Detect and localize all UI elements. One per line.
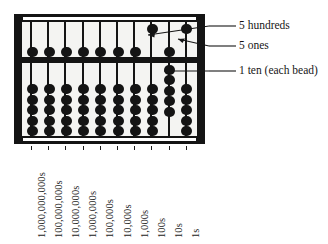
lower-bead-100000-2-inactive[interactable] xyxy=(95,95,106,105)
upper-bead-1000000-inactive[interactable] xyxy=(78,47,89,57)
column-tick-10000000 xyxy=(65,146,66,150)
lower-bead-100000000-1-inactive[interactable] xyxy=(44,84,55,94)
upper-bead-100000000-inactive[interactable] xyxy=(44,47,55,57)
lower-bead-10000-2-inactive[interactable] xyxy=(113,95,124,105)
column-label-1: 1s xyxy=(190,228,201,238)
annotation-1-ten-each-bead: 1 ten (each bead) xyxy=(239,64,318,76)
lower-bead-100000000-3-inactive[interactable] xyxy=(44,105,55,115)
lower-bead-100-5-inactive[interactable] xyxy=(147,126,158,136)
lower-bead-1000-4-inactive[interactable] xyxy=(130,116,141,126)
column-tick-100000 xyxy=(100,146,101,150)
lower-bead-10000-5-inactive[interactable] xyxy=(113,126,124,136)
lower-bead-10-3-active[interactable] xyxy=(164,86,175,96)
column-tick-10 xyxy=(169,146,170,150)
upper-bead-1000000000-inactive[interactable] xyxy=(27,47,38,57)
column-label-10000: 10,000s xyxy=(122,204,133,238)
lower-bead-1000000-5-inactive[interactable] xyxy=(78,126,89,136)
column-label-100000000: 100,000,000s xyxy=(53,180,64,238)
upper-bead-100-active[interactable] xyxy=(147,24,158,34)
lower-bead-1000-2-inactive[interactable] xyxy=(130,95,141,105)
lower-bead-1000-3-inactive[interactable] xyxy=(130,105,141,115)
lower-bead-10000000-4-inactive[interactable] xyxy=(61,116,72,126)
column-tick-100 xyxy=(151,146,152,150)
lower-bead-100000-4-inactive[interactable] xyxy=(95,116,106,126)
column-label-10000000: 10,000,000s xyxy=(70,186,81,238)
abacus-frame-bottom-highlight xyxy=(23,138,196,141)
abacus-frame-top-highlight xyxy=(23,17,196,20)
column-label-1000000000: 1,000,000,000s xyxy=(36,172,47,238)
lower-bead-10000-1-inactive[interactable] xyxy=(113,84,124,94)
abacus-figure: 1,000,000,000s100,000,000s10,000,000s1,0… xyxy=(0,0,328,244)
abacus xyxy=(14,14,205,144)
lower-bead-1000000-2-inactive[interactable] xyxy=(78,95,89,105)
annotation-5-hundreds: 5 hundreds xyxy=(239,19,290,31)
upper-bead-10000-inactive[interactable] xyxy=(113,47,124,57)
lower-bead-1-2-inactive[interactable] xyxy=(181,95,192,105)
column-label-100000: 100,000s xyxy=(104,199,115,238)
lower-bead-1000-5-inactive[interactable] xyxy=(130,126,141,136)
lower-bead-1000000000-5-inactive[interactable] xyxy=(27,126,38,136)
lower-bead-1000-1-inactive[interactable] xyxy=(130,84,141,94)
lower-bead-100000000-2-inactive[interactable] xyxy=(44,95,55,105)
column-tick-1000 xyxy=(134,146,135,150)
lower-bead-10000000-5-inactive[interactable] xyxy=(61,126,72,136)
lower-bead-100-2-inactive[interactable] xyxy=(147,95,158,105)
lower-bead-1000000000-1-inactive[interactable] xyxy=(27,84,38,94)
column-tick-1000000 xyxy=(83,146,84,150)
lower-bead-10-1-active[interactable] xyxy=(164,65,175,75)
lower-bead-1000000000-3-inactive[interactable] xyxy=(27,105,38,115)
column-label-10: 10s xyxy=(173,223,184,238)
column-tick-10000 xyxy=(117,146,118,150)
column-label-1000000: 1,000,000s xyxy=(87,191,98,238)
lower-bead-10000000-3-inactive[interactable] xyxy=(61,105,72,115)
upper-bead-10000000-inactive[interactable] xyxy=(61,47,72,57)
lower-bead-100-3-inactive[interactable] xyxy=(147,105,158,115)
column-tick-1 xyxy=(186,146,187,150)
upper-bead-1000-inactive[interactable] xyxy=(130,47,141,57)
abacus-reckoning-bar xyxy=(20,57,199,63)
lower-bead-10-5-active[interactable] xyxy=(164,107,175,117)
lower-bead-1000000000-4-inactive[interactable] xyxy=(27,116,38,126)
column-label-1000: 1,000s xyxy=(139,210,150,238)
lower-bead-10000000-2-inactive[interactable] xyxy=(61,95,72,105)
lower-bead-1000000-4-inactive[interactable] xyxy=(78,116,89,126)
upper-bead-10-inactive[interactable] xyxy=(164,47,175,57)
column-label-100: 100s xyxy=(156,218,167,238)
lower-bead-1-4-inactive[interactable] xyxy=(181,116,192,126)
lower-bead-100000000-4-inactive[interactable] xyxy=(44,116,55,126)
lower-bead-10000-3-inactive[interactable] xyxy=(113,105,124,115)
column-tick-1000000000 xyxy=(31,146,32,150)
lower-bead-1000000000-2-inactive[interactable] xyxy=(27,95,38,105)
lower-bead-100000000-5-inactive[interactable] xyxy=(44,126,55,136)
column-tick-100000000 xyxy=(48,146,49,150)
annotation-5-ones: 5 ones xyxy=(239,39,269,51)
lower-bead-10000-4-inactive[interactable] xyxy=(113,116,124,126)
lower-bead-100-4-inactive[interactable] xyxy=(147,116,158,126)
